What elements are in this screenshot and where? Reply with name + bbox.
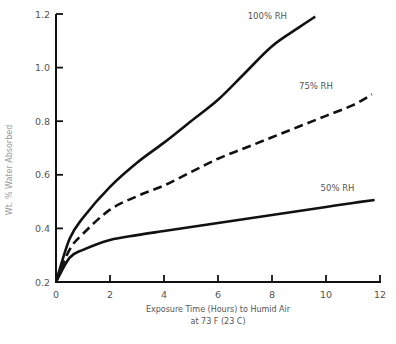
x-tick-label: 12 bbox=[374, 289, 386, 300]
series-label: 100% RH bbox=[248, 11, 287, 21]
x-tick-label: 6 bbox=[215, 289, 221, 300]
y-tick-label: 0.6 bbox=[35, 169, 50, 180]
x-tick-label: 2 bbox=[107, 289, 113, 300]
series-label: 75% RH bbox=[299, 81, 333, 91]
series-50-rh-line bbox=[56, 200, 375, 282]
x-tick-label: 0 bbox=[53, 289, 59, 300]
y-tick-label: 0.4 bbox=[35, 223, 50, 234]
series-label: 50% RH bbox=[321, 183, 355, 193]
x-tick-label: 8 bbox=[269, 289, 275, 300]
series-100-rh-line bbox=[56, 17, 315, 282]
series-labels: 100% RH75% RH50% RH bbox=[248, 11, 355, 193]
y-axis-title: Wt. % Water Absorbed bbox=[5, 125, 14, 215]
axes: 0246810120.20.40.60.81.01.2 bbox=[35, 9, 386, 301]
water-absorption-chart: 0246810120.20.40.60.81.01.2 100% RH75% R… bbox=[0, 0, 396, 344]
x-axis-title-line2: at 73 F (23 C) bbox=[191, 317, 246, 326]
y-tick-label: 0.8 bbox=[35, 116, 50, 127]
x-axis-title: Exposure Time (Hours) to Humid Air bbox=[146, 305, 291, 314]
x-tick-label: 10 bbox=[320, 289, 332, 300]
y-tick-label: 0.2 bbox=[35, 277, 50, 288]
series-lines bbox=[56, 17, 375, 282]
y-tick-label: 1.2 bbox=[35, 9, 50, 20]
y-tick-label: 1.0 bbox=[35, 62, 50, 73]
x-tick-label: 4 bbox=[161, 289, 167, 300]
